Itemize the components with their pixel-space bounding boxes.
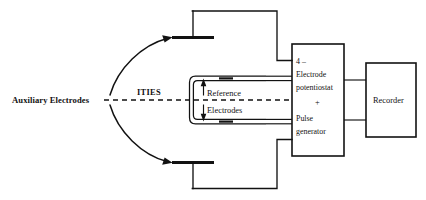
- reference-cell-outer-bracket: [190, 76, 267, 124]
- schematic-canvas: Auxiliary Electrodes ITIES Reference Ele…: [0, 0, 426, 200]
- potentiostat-line-4: +: [315, 98, 320, 107]
- auxiliary-electrode-top-group: [172, 11, 292, 61]
- ities-label: ITIES: [137, 88, 161, 97]
- potentiostat-line-5: Pulse: [296, 114, 314, 123]
- auxiliary-pointer-curve-bottom: [110, 105, 173, 165]
- potentiostat-line-1: 4 –: [296, 57, 306, 66]
- reference-label: Reference: [207, 89, 241, 98]
- potentiostat-line-3: potentiostat: [296, 83, 334, 92]
- potentiostat-line-2: Electrode: [296, 70, 327, 79]
- potentiostat-line-6: generator: [296, 127, 326, 136]
- figure-root: Auxiliary Electrodes ITIES Reference Ele…: [0, 0, 426, 200]
- auxiliary-electrode-bottom-group: [172, 140, 292, 189]
- wire-auxiliary-top-to-potentiostat: [192, 11, 292, 61]
- auxiliary-pointer-curve-top: [110, 35, 173, 95]
- recorder-label: Recorder: [373, 96, 404, 105]
- electrodes-label: Electrodes: [207, 106, 242, 115]
- auxiliary-electrodes-label: Auxiliary Electrodes: [12, 95, 90, 105]
